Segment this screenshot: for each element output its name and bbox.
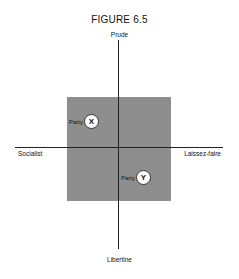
party-x-marker: Party X [69,114,99,129]
party-y-circle: Y [136,170,151,185]
party-y-marker: Party Y [121,170,151,185]
shaded-region [67,97,171,201]
party-x-circle: X [84,114,99,129]
axis-label-laissez-faire: Laissez-faire [184,150,221,157]
party-x-label: Party [69,119,83,125]
axis-label-libertine: Libertine [0,256,239,263]
axis-label-prude: Prude [0,31,239,38]
figure-title: FIGURE 6.5 [0,14,239,25]
party-y-label: Party [121,175,135,181]
vertical-axis [118,40,119,249]
horizontal-axis [15,147,223,148]
axis-label-socialist: Socialist [18,150,42,157]
